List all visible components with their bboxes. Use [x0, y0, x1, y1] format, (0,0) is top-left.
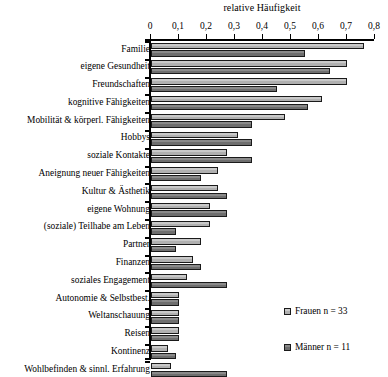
bar-maenner	[151, 264, 201, 270]
bar-maenner	[151, 68, 330, 74]
x-tick-mark	[374, 34, 375, 39]
bar-maenner	[151, 282, 227, 288]
x-tick-label: 0,8	[368, 21, 380, 31]
bar-maenner	[151, 371, 227, 377]
chart-row: Familie	[0, 41, 388, 59]
x-tick-label: 0,2	[200, 21, 212, 31]
x-tick-mark	[234, 34, 235, 39]
legend-label-frauen: Frauen n = 33	[295, 306, 347, 316]
x-tick-mark	[262, 34, 263, 39]
bar-frauen	[151, 274, 187, 280]
chart-row: soziale Kontakte	[0, 148, 388, 166]
bar-maenner	[151, 210, 227, 216]
category-label: soziales Engagement	[71, 275, 150, 286]
legend-label-maenner: Männer n = 11	[295, 342, 350, 352]
x-axis-tick-labels: 00,10,20,30,40,50,60,70,8	[0, 21, 388, 34]
category-label: Wohlbefinden & sinnl. Erfahrung	[24, 364, 150, 375]
category-label: Reisen	[124, 328, 150, 339]
bar-frauen	[151, 256, 193, 262]
bar-frauen	[151, 167, 218, 173]
bar-chart: relative Häufigkeit 00,10,20,30,40,50,60…	[0, 0, 388, 377]
bar-maenner	[151, 193, 227, 199]
x-tick-mark	[178, 34, 179, 39]
x-tick-mark	[318, 34, 319, 39]
bar-maenner	[151, 335, 179, 341]
chart-row: Freundschaften	[0, 77, 388, 95]
category-label: Partner	[123, 239, 150, 250]
category-label: Kultur & Ästhetik	[82, 186, 150, 197]
category-label: Freundschaften	[92, 79, 150, 90]
chart-row: Reisen	[0, 326, 388, 344]
x-tick-label: 0,3	[228, 21, 240, 31]
bar-frauen	[151, 132, 238, 138]
bar-frauen	[151, 310, 179, 316]
bar-maenner	[151, 246, 176, 252]
bar-frauen	[151, 238, 201, 244]
chart-row: Wohlbefinden & sinnl. Erfahrung	[0, 361, 388, 377]
category-label: kognitive Fähigkeiten	[68, 97, 150, 108]
category-label: eigene Wohnung	[87, 204, 150, 215]
legend-swatch-icon-maenner	[284, 344, 291, 351]
category-label: Familie	[121, 44, 150, 55]
x-tick-label: 0,4	[256, 21, 268, 31]
x-tick-mark	[150, 34, 151, 39]
bar-frauen	[151, 327, 179, 333]
bar-maenner	[151, 175, 201, 181]
legend-swatch-icon-frauen	[284, 308, 291, 315]
bar-maenner	[151, 228, 176, 234]
plot-area: Familieeigene GesundheitFreundschaftenko…	[0, 41, 388, 377]
bar-maenner	[151, 86, 277, 92]
bar-frauen	[151, 363, 171, 369]
x-tick-mark	[290, 34, 291, 39]
chart-row: Mobilität & körperl. Fähigkeiten	[0, 112, 388, 130]
chart-row: Kultur & Ästhetik	[0, 183, 388, 201]
legend-item-frauen: Frauen n = 33	[284, 306, 347, 316]
bar-maenner	[151, 353, 176, 359]
bar-frauen	[151, 96, 322, 102]
x-tick-mark	[206, 34, 207, 39]
chart-row: Aneignung neuer Fähigkeiten	[0, 166, 388, 184]
bar-frauen	[151, 60, 347, 66]
bar-frauen	[151, 114, 285, 120]
x-tick-label: 0,5	[284, 21, 296, 31]
category-label: Weltanschauung	[88, 310, 150, 321]
category-label: (soziale) Teilhabe am Leben	[44, 221, 150, 232]
category-label: Mobilität & körperl. Fähigkeiten	[27, 115, 150, 126]
chart-row: (soziale) Teilhabe am Leben	[0, 219, 388, 237]
x-tick-label: 0,6	[312, 21, 324, 31]
bar-frauen	[151, 221, 210, 227]
bar-frauen	[151, 149, 227, 155]
x-tick-label: 0	[148, 21, 153, 31]
bar-maenner	[151, 157, 252, 163]
category-label: Aneignung neuer Fähigkeiten	[39, 168, 150, 179]
category-label: Hobbys	[121, 132, 150, 143]
category-label: Finanzen	[116, 257, 150, 268]
bar-frauen	[151, 43, 364, 49]
bar-maenner	[151, 299, 179, 305]
category-label: Kontinenz	[111, 346, 150, 357]
category-label: Autonomie & Selbstbest.	[55, 293, 150, 304]
bar-frauen	[151, 345, 168, 351]
legend-item-maenner: Männer n = 11	[284, 342, 350, 352]
chart-row: Hobbys	[0, 130, 388, 148]
bar-frauen	[151, 203, 210, 209]
bar-maenner	[151, 121, 252, 127]
bar-frauen	[151, 78, 347, 84]
category-label: soziale Kontakte	[87, 150, 150, 161]
chart-row: eigene Wohnung	[0, 201, 388, 219]
chart-row: Finanzen	[0, 255, 388, 273]
bar-maenner	[151, 139, 252, 145]
chart-row: Partner	[0, 237, 388, 255]
bar-frauen	[151, 292, 179, 298]
x-tick-mark	[346, 34, 347, 39]
bar-maenner	[151, 50, 305, 56]
chart-row: kognitive Fähigkeiten	[0, 94, 388, 112]
bar-maenner	[151, 317, 179, 323]
chart-row: eigene Gesundheit	[0, 59, 388, 77]
bar-maenner	[151, 104, 308, 110]
chart-row: soziales Engagement	[0, 272, 388, 290]
category-label: eigene Gesundheit	[80, 61, 150, 72]
x-tick-label: 0,7	[340, 21, 352, 31]
bar-frauen	[151, 185, 218, 191]
x-tick-label: 0,1	[172, 21, 184, 31]
